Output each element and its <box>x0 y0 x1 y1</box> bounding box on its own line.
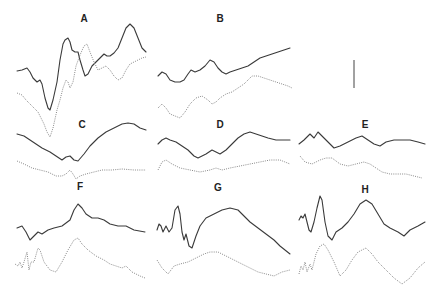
waveform-figure: ABCDEFGH <box>0 0 446 296</box>
trace-a-solid <box>17 24 146 110</box>
panel-label-f: F <box>77 181 83 192</box>
panel-label-a: A <box>80 13 87 24</box>
panel-label-d: D <box>216 119 223 130</box>
panel-label-b: B <box>216 13 223 24</box>
trace-h-solid <box>299 196 425 240</box>
panel-b <box>158 48 292 118</box>
panel-c <box>17 123 146 179</box>
panel-f <box>15 204 145 278</box>
waveform-plot-area <box>0 0 446 296</box>
panel-label-g: G <box>214 182 222 193</box>
panel-d <box>158 132 290 172</box>
trace-e-dotted <box>300 156 422 178</box>
trace-c-dotted <box>17 161 146 179</box>
panel-g <box>157 206 290 276</box>
panel-label-e: E <box>362 119 369 130</box>
trace-f-solid <box>17 204 145 240</box>
trace-d-dotted <box>158 160 290 172</box>
trace-f-dotted <box>15 238 145 278</box>
trace-g-solid <box>157 206 290 254</box>
panel-e <box>299 132 425 178</box>
panel-label-c: C <box>78 119 85 130</box>
panel-label-h: H <box>361 184 368 195</box>
panel-h <box>299 196 425 284</box>
trace-d-solid <box>158 132 290 158</box>
trace-b-solid <box>158 48 290 82</box>
trace-g-dotted <box>157 252 290 276</box>
trace-h-dotted <box>299 244 425 284</box>
trace-e-solid <box>299 132 425 148</box>
